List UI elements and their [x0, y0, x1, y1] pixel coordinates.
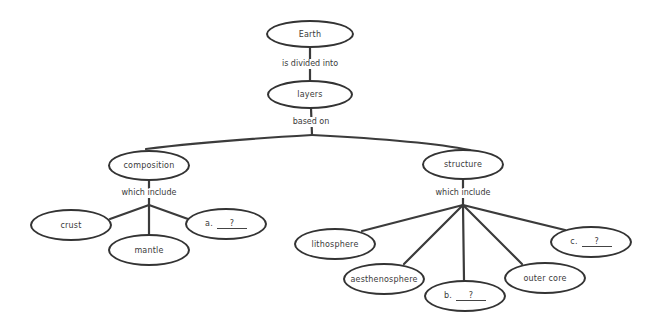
connector-to-blank-b: [463, 205, 464, 280]
link-label-is-divided-into: is divided into: [280, 59, 340, 69]
connector-to-composition: [146, 135, 312, 149]
connector-to-blank-c: [463, 205, 565, 230]
blank-a[interactable]: a. ?: [205, 219, 247, 229]
connector-to-lithosphere: [362, 205, 463, 231]
node-crust: crust: [30, 209, 112, 241]
connector-to-crust: [110, 205, 149, 219]
node-blank-b[interactable]: b. ?: [424, 280, 506, 312]
link-label-based-on: based on: [291, 117, 332, 127]
node-outer-core: outer core: [504, 262, 586, 294]
node-structure-label: structure: [444, 160, 482, 169]
node-lithosphere-label: lithosphere: [311, 240, 358, 249]
node-mantle: mantle: [108, 234, 190, 266]
node-lithosphere: lithosphere: [294, 228, 376, 260]
blank-b-answer[interactable]: ?: [456, 291, 486, 301]
connector-to-blank-a: [149, 205, 188, 219]
node-earth-label: Earth: [299, 30, 321, 39]
node-crust-label: crust: [60, 221, 81, 230]
node-aesthenosphere-label: aesthenosphere: [350, 275, 417, 284]
connector-to-aesthenosphere: [404, 205, 463, 264]
link-label-composition-which-include: which include: [120, 188, 179, 198]
blank-c-answer[interactable]: ?: [582, 237, 612, 247]
blank-b[interactable]: b. ?: [444, 291, 486, 301]
connector-to-outer-core: [463, 205, 522, 264]
concept-map: is divided into based on which include w…: [0, 0, 663, 329]
node-layers-label: layers: [297, 90, 322, 99]
node-aesthenosphere: aesthenosphere: [343, 263, 425, 295]
connector-to-structure: [312, 135, 470, 150]
node-composition-label: composition: [124, 161, 175, 170]
blank-c-prefix: c.: [570, 237, 577, 246]
node-blank-c[interactable]: c. ?: [550, 226, 632, 258]
blank-c[interactable]: c. ?: [570, 237, 611, 247]
node-blank-a[interactable]: a. ?: [185, 208, 267, 240]
node-earth: Earth: [266, 20, 354, 48]
blank-a-prefix: a.: [205, 219, 213, 228]
blank-a-answer[interactable]: ?: [217, 219, 247, 229]
node-outer-core-label: outer core: [523, 274, 566, 283]
link-label-structure-which-include: which include: [434, 188, 493, 198]
blank-b-prefix: b.: [444, 291, 452, 300]
node-composition: composition: [108, 150, 190, 181]
node-layers: layers: [267, 80, 353, 109]
node-mantle-label: mantle: [134, 246, 163, 255]
node-structure: structure: [422, 149, 504, 180]
